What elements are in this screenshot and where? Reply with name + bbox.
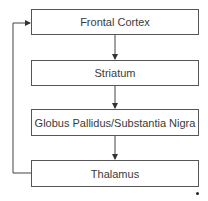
node-frontal-cortex: Frontal Cortex <box>31 9 199 35</box>
node-label: Thalamus <box>91 168 139 180</box>
node-globus-pallidus-substantia-nigra: Globus Pallidus/Substantia Nigra <box>31 109 199 136</box>
node-label: Striatum <box>95 67 136 79</box>
node-label: Globus Pallidus/Substantia Nigra <box>35 117 196 129</box>
stray-dot-mark <box>196 192 199 195</box>
arrow-thalamus-to-frontal-feedback <box>13 23 31 173</box>
node-striatum: Striatum <box>31 60 199 86</box>
node-thalamus: Thalamus <box>31 160 199 187</box>
node-label: Frontal Cortex <box>80 16 150 28</box>
